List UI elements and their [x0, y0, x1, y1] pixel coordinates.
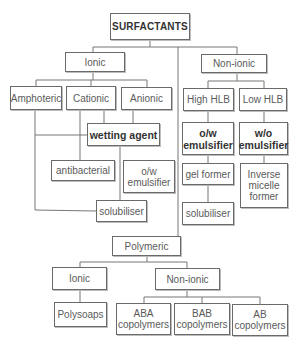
- node-ow-emulsifier-nonionic: o/w emulsifier: [182, 122, 234, 155]
- node-ionic: Ionic: [65, 52, 125, 72]
- node-polymeric-ionic: Ionic: [52, 267, 107, 290]
- node-amphoteric: Amphoteric: [10, 86, 62, 110]
- node-bab-copolymers: BAB copolymers: [174, 303, 230, 335]
- node-polysoaps: Polysoaps: [54, 302, 107, 327]
- node-solubiliser-ionic: solubiliser: [96, 200, 147, 222]
- node-wetting-agent: wetting agent: [87, 123, 160, 146]
- node-ow-emulsifier-ionic: o/w emulsifier: [123, 160, 175, 193]
- node-aba-copolymers: ABA copolymers: [116, 303, 171, 335]
- node-gel-former: gel former: [182, 163, 234, 185]
- node-ab-copolymers: AB copolymers: [232, 304, 288, 336]
- node-anionic: Anionic: [121, 87, 172, 110]
- node-solubiliser-nonionic: solubiliser: [182, 202, 234, 225]
- node-wo-emulsifier: w/o emulsifier: [239, 122, 288, 155]
- node-cationic: Cationic: [66, 86, 116, 110]
- root-surfactants: SURFACTANTS: [110, 13, 190, 40]
- node-high-hlb: High HLB: [183, 88, 234, 111]
- node-polymeric: Polymeric: [112, 236, 181, 256]
- surfactants-diagram: SURFACTANTS Ionic Non-ionic Amphoteric C…: [0, 0, 299, 344]
- node-nonionic: Non-ionic: [201, 54, 267, 73]
- node-low-hlb: Low HLB: [239, 88, 287, 111]
- node-antibacterial: antibacterial: [51, 160, 115, 181]
- node-inverse-micelle-former: Inverse micelle former: [240, 163, 288, 208]
- node-polymeric-nonionic: Non-ionic: [155, 268, 220, 290]
